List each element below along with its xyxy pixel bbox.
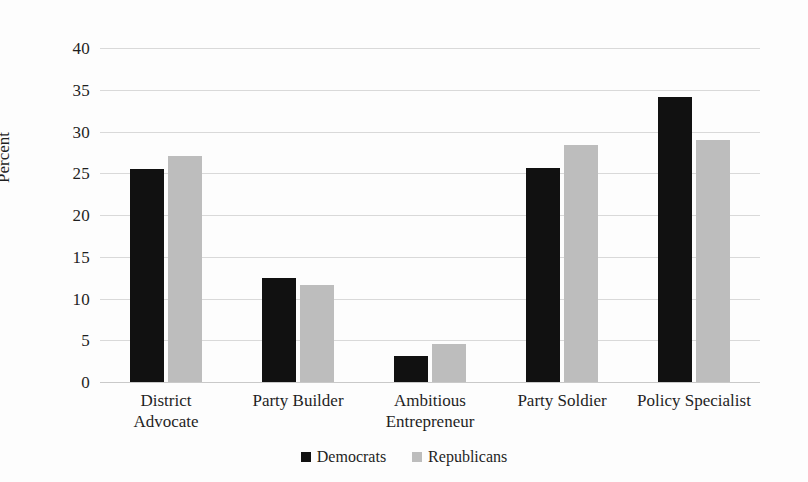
y-axis-title: Percent: [0, 132, 14, 183]
legend-label: Republicans: [428, 448, 507, 466]
legend-item-republicans[interactable]: Republicans: [412, 448, 507, 466]
y-axis-tick-label: 0: [30, 374, 90, 391]
legend-label: Democrats: [317, 448, 386, 466]
bar-democrats-ambitious-entrepreneur: [394, 356, 428, 382]
x-axis-category-label: Party Builder: [232, 390, 364, 411]
category-label-line: District: [100, 390, 232, 411]
bar-democrats-policy-specialist: [658, 97, 692, 382]
black-square-icon: [301, 452, 311, 462]
y-axis-tick-label: 25: [30, 165, 90, 182]
bar-democrats-district-advocate: [130, 169, 164, 382]
y-axis-tick-label: 5: [30, 332, 90, 349]
gray-square-icon: [412, 452, 422, 462]
y-axis-tick-label: 15: [30, 249, 90, 266]
y-axis-tick-label: 20: [30, 207, 90, 224]
gridline: [100, 382, 760, 383]
category-label-line: Ambitious: [364, 390, 496, 411]
category-label-line: Party Builder: [232, 390, 364, 411]
bar-democrats-party-soldier: [526, 168, 560, 382]
category-label-line: Policy Specialist: [628, 390, 760, 411]
y-axis-tick-label: 10: [30, 291, 90, 308]
gridline: [100, 48, 760, 49]
grouped-bar-chart: Percent 0510152025303540 DistrictAdvocat…: [0, 0, 808, 482]
bar-republicans-party-soldier: [564, 145, 598, 382]
category-label-line: Entrepreneur: [364, 411, 496, 432]
bar-democrats-party-builder: [262, 278, 296, 382]
category-label-line: Advocate: [100, 411, 232, 432]
plot-area: [100, 48, 760, 382]
gridline: [100, 90, 760, 91]
y-axis-tick-label: 30: [30, 124, 90, 141]
chart-legend: DemocratsRepublicans: [0, 448, 808, 466]
bar-republicans-ambitious-entrepreneur: [432, 344, 466, 382]
bar-republicans-party-builder: [300, 285, 334, 382]
x-axis-category-label: Party Soldier: [496, 390, 628, 411]
y-axis-tick-label: 40: [30, 40, 90, 57]
x-axis-category-label: AmbitiousEntrepreneur: [364, 390, 496, 432]
legend-item-democrats[interactable]: Democrats: [301, 448, 386, 466]
x-axis-category-label: DistrictAdvocate: [100, 390, 232, 432]
y-axis-tick-label: 35: [30, 82, 90, 99]
bar-republicans-district-advocate: [168, 156, 202, 382]
x-axis-category-label: Policy Specialist: [628, 390, 760, 411]
bar-republicans-policy-specialist: [696, 140, 730, 382]
category-label-line: Party Soldier: [496, 390, 628, 411]
